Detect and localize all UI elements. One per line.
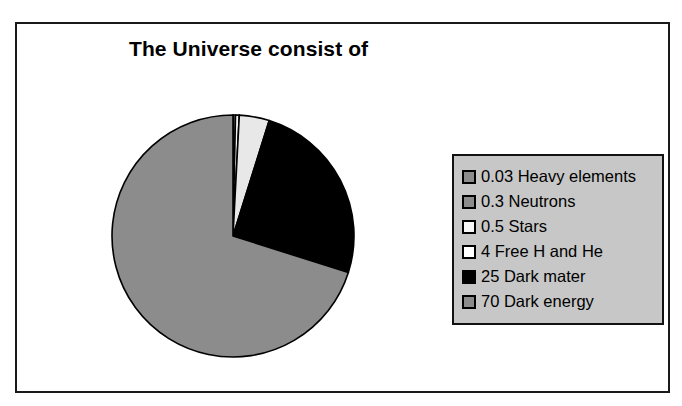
legend-item[interactable]: 70 Dark energy xyxy=(462,289,656,314)
legend-swatch-icon xyxy=(462,195,476,209)
legend-swatch-icon xyxy=(462,220,476,234)
legend-item[interactable]: 25 Dark mater xyxy=(462,264,656,289)
legend-item-label: 0.03 Heavy elements xyxy=(481,168,636,185)
legend-item-label: 70 Dark energy xyxy=(481,293,594,310)
figure-frame: The Universe consist of 0.03 Heavy eleme… xyxy=(15,22,670,393)
chart-title: The Universe consist of xyxy=(129,37,368,61)
legend-swatch-icon xyxy=(462,270,476,284)
legend-item-label: 0.3 Neutrons xyxy=(481,193,575,210)
legend-swatch-icon xyxy=(462,245,476,259)
legend-item[interactable]: 0.5 Stars xyxy=(462,214,656,239)
pie-slices xyxy=(112,115,354,357)
chart-legend: 0.03 Heavy elements 0.3 Neutrons 0.5 Sta… xyxy=(452,154,664,325)
legend-swatch-icon xyxy=(462,295,476,309)
legend-item-label: 25 Dark mater xyxy=(481,268,586,285)
legend-item[interactable]: 4 Free H and He xyxy=(462,239,656,264)
legend-item-label: 0.5 Stars xyxy=(481,218,547,235)
legend-item[interactable]: 0.03 Heavy elements xyxy=(462,164,656,189)
pie-svg xyxy=(110,113,356,359)
legend-item-label: 4 Free H and He xyxy=(481,243,603,260)
legend-item[interactable]: 0.3 Neutrons xyxy=(462,189,656,214)
legend-swatch-icon xyxy=(462,170,476,184)
pie-chart xyxy=(110,113,356,359)
